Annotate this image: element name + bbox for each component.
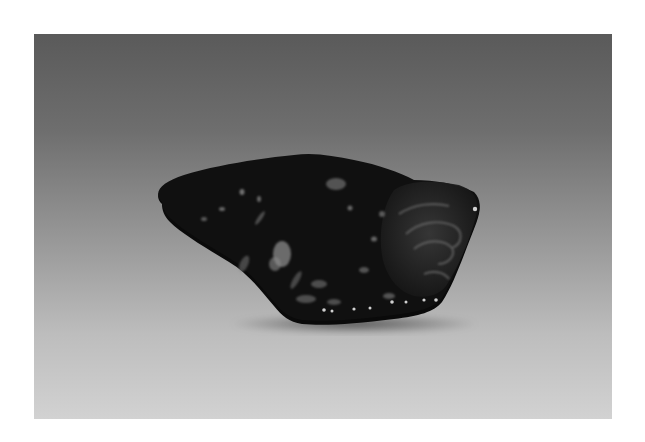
stone-illustration [34, 34, 612, 419]
photograph [34, 34, 612, 419]
stone-right-facet [381, 182, 477, 297]
